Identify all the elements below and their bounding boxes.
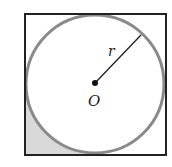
center-point xyxy=(92,80,98,86)
center-label: O xyxy=(88,92,100,110)
radius-line xyxy=(95,35,141,83)
circle-inscribed-in-square-diagram: r O xyxy=(0,0,172,167)
radius-label: r xyxy=(108,43,116,59)
